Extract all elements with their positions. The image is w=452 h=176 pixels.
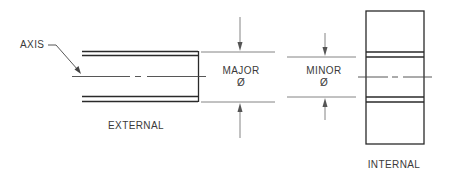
external-label: EXTERNAL bbox=[108, 120, 164, 131]
internal-label: INTERNAL bbox=[368, 159, 421, 170]
thread-diagram bbox=[0, 0, 452, 176]
external-thread bbox=[72, 51, 206, 102]
major-label: MAJOR bbox=[223, 65, 260, 76]
major-diameter-symbol: Ø bbox=[237, 77, 245, 88]
minor-arrowhead-down-icon bbox=[323, 47, 328, 56]
axis-label: AXIS bbox=[20, 39, 44, 50]
major-arrowhead-up-icon bbox=[238, 103, 243, 112]
major-arrowhead-down-icon bbox=[238, 42, 243, 51]
minor-arrowhead-up-icon bbox=[323, 98, 328, 107]
axis-leader bbox=[48, 45, 81, 74]
minor-label: MINOR bbox=[306, 65, 341, 76]
internal-body bbox=[366, 11, 424, 144]
internal-thread bbox=[358, 11, 432, 144]
minor-diameter-symbol: Ø bbox=[320, 77, 328, 88]
